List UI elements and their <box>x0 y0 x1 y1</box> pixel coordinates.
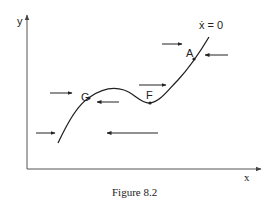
figure-8-2: y x ẋ = 0 G F A Figure 8.2 <box>0 0 271 201</box>
figure-caption: Figure 8.2 <box>112 186 157 198</box>
y-axis-label: y <box>17 15 23 27</box>
direction-arrows <box>36 44 228 133</box>
point-f <box>148 101 151 104</box>
isocline-label: ẋ = 0 <box>199 19 223 31</box>
point-g-label: G <box>81 91 90 103</box>
x-axis-label: x <box>244 171 250 183</box>
point-a-label: A <box>186 47 194 59</box>
point-f-label: F <box>146 89 153 101</box>
